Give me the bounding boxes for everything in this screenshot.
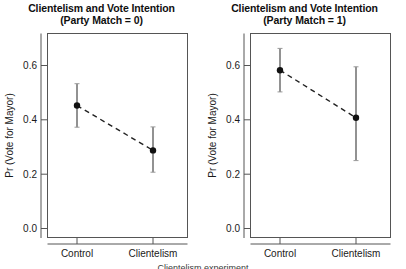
point-estimate-control: [74, 102, 80, 108]
plot-area-0: 0.0 0.2 0.4 0.6 Pr (Vote for Mayor) Cont…: [0, 0, 203, 269]
y-tick-label-1: 0.2: [226, 169, 240, 180]
point-estimate-clientelism: [353, 115, 359, 121]
x-axis-ticks: [48, 238, 188, 244]
x-tick-label-control: Control: [61, 248, 93, 259]
panel-party-match-0: Clientelism and Vote Intention (Party Ma…: [0, 0, 203, 269]
x-tick-label-control: Control: [264, 248, 296, 259]
figure-canvas: Clientelism and Vote Intention (Party Ma…: [0, 0, 406, 269]
y-tick-label-0: 0.0: [23, 223, 37, 234]
errorbar-clientelism: [354, 67, 359, 161]
panel-party-match-1: Clientelism and Vote Intention (Party Ma…: [203, 0, 406, 269]
y-axis-label: Pr (Vote for Mayor): [207, 93, 218, 177]
trend-line: [280, 70, 356, 118]
y-tick-label-3: 0.6: [23, 60, 37, 71]
x-tick-label-clientelism: Clientelism: [332, 248, 381, 259]
y-tick-label-1: 0.2: [23, 169, 37, 180]
y-tick-label-0: 0.0: [226, 223, 240, 234]
point-estimate-control: [277, 67, 283, 73]
plot-area-1: 0.0 0.2 0.4 0.6 Pr (Vote for Mayor) Cont…: [203, 0, 406, 269]
point-estimate-clientelism: [150, 147, 156, 153]
y-tick-label-2: 0.4: [23, 114, 37, 125]
y-tick-label-2: 0.4: [226, 114, 240, 125]
panel-border: [48, 34, 188, 238]
trend-line: [77, 106, 153, 151]
x-axis-ticks: [251, 238, 391, 244]
y-axis-ticks: [244, 34, 251, 239]
y-axis-label: Pr (Vote for Mayor): [4, 93, 15, 177]
y-axis-ticks: [41, 34, 48, 239]
panel-border: [251, 34, 391, 238]
caption-partial: Clientelism experiment: [0, 263, 406, 269]
y-tick-label-3: 0.6: [226, 60, 240, 71]
x-tick-label-clientelism: Clientelism: [129, 248, 178, 259]
